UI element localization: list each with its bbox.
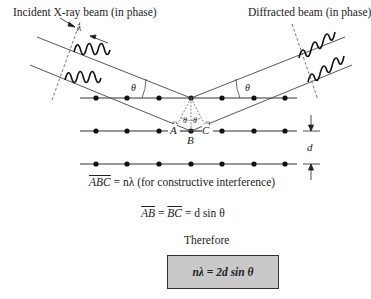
point-a-label: A	[170, 124, 177, 136]
lambda-label: λ	[77, 22, 81, 33]
constructive-interference-equation: ABC = nλ (for constructive interference)	[89, 176, 275, 188]
wavelength-marker	[60, 18, 108, 43]
theta-label-diffracted: θ	[245, 82, 250, 93]
theta-label-incident: θ	[131, 82, 136, 93]
path-length-equation: AB = BC = d sin θ	[141, 207, 225, 219]
diffracted-beam-label: Diffracted beam (in phase)	[248, 6, 371, 18]
incident-beam-label: Incident X-ray beam (in phase)	[13, 6, 157, 18]
bc-path: BC	[167, 207, 182, 219]
wavefront-dashed-lines	[52, 22, 318, 100]
point-c-label: C	[202, 124, 209, 136]
point-b-label: B	[187, 134, 194, 146]
theta-label-inner-right: θ	[193, 116, 197, 125]
diffracted-wave-packets	[299, 32, 344, 82]
theta-label-inner-left: θ	[183, 116, 187, 125]
diffracted-rays	[191, 37, 352, 131]
abc-path: ABC	[89, 176, 111, 188]
therefore-label: Therefore	[184, 234, 229, 246]
incident-rays	[30, 37, 191, 131]
theta-arcs	[142, 79, 240, 98]
bragg-law-equation: nλ = 2d sin θ	[192, 266, 253, 278]
ab-path: AB	[141, 207, 155, 219]
d-spacing-label: d	[307, 141, 313, 153]
bragg-law-result-box: nλ = 2d sin θ	[167, 255, 279, 289]
eq1-rhs: = nλ (for constructive interference)	[111, 176, 275, 188]
eq2-rhs: = d sin θ	[182, 207, 225, 219]
eq2-equals: =	[155, 207, 167, 219]
